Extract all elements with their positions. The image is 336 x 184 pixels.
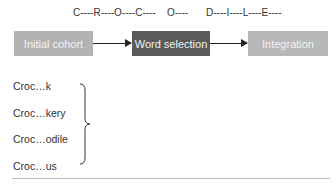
divider <box>12 178 330 179</box>
stage-initial-cohort: Initial cohort <box>14 31 93 56</box>
brace-icon <box>78 82 94 166</box>
candidate-word: Croc…us <box>13 160 57 172</box>
stage-integration: Integration <box>248 31 328 56</box>
letter-sequence-2: O---- <box>167 7 188 18</box>
candidate-word: Croc…k <box>13 80 51 92</box>
letter-sequence-3: D----I----L----E---- <box>206 7 282 18</box>
candidate-word: Croc…odile <box>13 133 68 145</box>
candidate-word: Croc…kery <box>13 107 66 119</box>
stage-word-selection: Word selection <box>132 31 210 56</box>
letter-sequence-1: C----R----O----C---- <box>73 7 156 18</box>
arrow-icon <box>210 43 247 44</box>
arrow-icon <box>93 43 131 44</box>
